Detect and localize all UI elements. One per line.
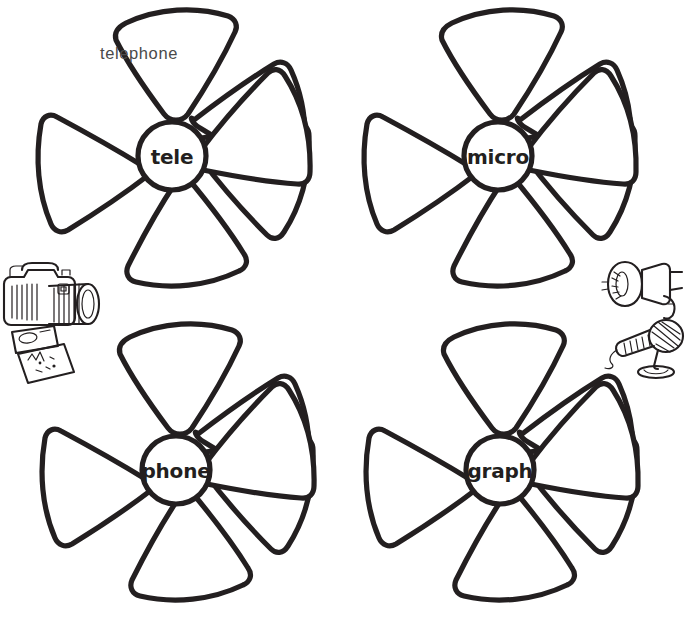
hub-label: phone <box>141 459 210 483</box>
hub-label: tele <box>151 145 194 169</box>
worksheet-canvas: tele telephone micro <box>0 0 698 630</box>
hub-label: micro <box>467 145 529 169</box>
worksheet-page: tele telephone micro <box>0 0 698 630</box>
hub-label: graph <box>467 459 532 483</box>
petal-word-0: telephone <box>100 44 178 62</box>
